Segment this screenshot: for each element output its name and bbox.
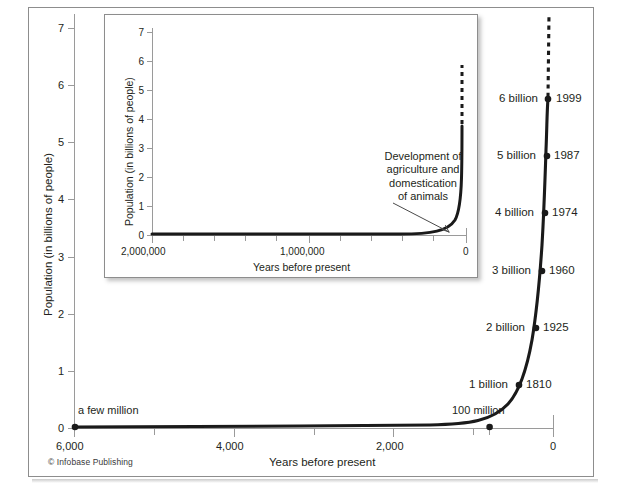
inset-annotation-arrow <box>393 203 449 232</box>
main-x-tick-label-6000: 6,000 <box>56 440 84 452</box>
main-x-tick-label-0: 0 <box>550 440 556 452</box>
inset-annotation-line-1: Development of <box>363 150 483 163</box>
milestone-dot-1925 <box>533 325 540 332</box>
milestone-year-1960: 1960 <box>549 264 575 277</box>
inset-x-axis-title: Years before present <box>253 262 350 274</box>
milestone-year-1925: 1925 <box>543 321 569 334</box>
inset-axes <box>147 28 467 243</box>
milestone-dot-1987 <box>544 153 551 160</box>
inset-annotation: Development of agriculture and domestica… <box>363 150 483 204</box>
inset-x-tick-label-1000000: 1,000,000 <box>280 246 325 257</box>
inset-y-tick-label-7: 7 <box>126 27 144 38</box>
inset-x-tick-label-2000000: 2,000,000 <box>121 246 166 257</box>
milestone-population-1999: 6 billion <box>464 92 538 105</box>
inset-y-tick-label-5: 5 <box>126 85 144 96</box>
event-label-a-few-million: a few million <box>78 404 139 416</box>
inset-y-tick-label-4: 4 <box>126 114 144 125</box>
event-dot-100-million <box>486 424 493 431</box>
event-label-100-million: 100 million <box>452 404 505 416</box>
milestone-population-1960: 3 billion <box>457 264 531 277</box>
inset-x-tick-label-0: 0 <box>463 246 469 257</box>
publisher-credit: © Infobase Publishing <box>48 457 133 467</box>
inset-y-tick-label-2: 2 <box>126 172 144 183</box>
milestone-year-1974: 1974 <box>552 206 578 219</box>
milestone-dot-1999 <box>545 96 552 103</box>
milestone-dot-1960 <box>539 268 546 275</box>
main-y-tick-label-5: 5 <box>44 136 64 148</box>
milestone-year-1999: 1999 <box>556 92 582 105</box>
milestone-population-1974: 4 billion <box>460 206 534 219</box>
main-y-tick-label-6: 6 <box>44 79 64 91</box>
population-growth-figure: Population (in billions of people) 7 6 5… <box>0 0 629 491</box>
milestone-year-1987: 1987 <box>554 149 580 162</box>
main-y-axis-title: Population (in billions of people) <box>42 153 55 316</box>
main-x-tick-label-2000: 2,000 <box>376 440 404 452</box>
main-y-tick-label-1: 1 <box>44 365 64 377</box>
milestone-dot-1810 <box>516 382 523 389</box>
inset-annotation-line-2: agriculture and <box>363 163 483 176</box>
main-population-curve-projection <box>548 14 549 97</box>
milestone-population-1925: 2 billion <box>451 321 525 334</box>
inset-y-tick-label-6: 6 <box>126 56 144 67</box>
main-y-tick-label-3: 3 <box>44 251 64 263</box>
main-axes <box>68 14 554 437</box>
main-y-tick-label-7: 7 <box>44 22 64 34</box>
inset-y-tick-label-3: 3 <box>126 143 144 154</box>
inset-annotation-line-3: domestication <box>363 177 483 190</box>
main-y-tick-label-0: 0 <box>44 422 64 434</box>
milestone-population-1810: 1 billion <box>434 378 508 391</box>
milestone-dot-1974 <box>542 210 549 217</box>
event-dot-a-few-million <box>72 424 79 431</box>
inset-y-tick-label-0: 0 <box>126 230 144 241</box>
main-x-axis-title: Years before present <box>269 456 375 469</box>
inset-annotation-line-4: of animals <box>363 190 483 203</box>
annotation-arrow-shaft <box>393 203 449 232</box>
milestone-year-1810: 1810 <box>526 378 552 391</box>
main-x-tick-label-4000: 4,000 <box>216 440 244 452</box>
main-y-tick-label-2: 2 <box>44 308 64 320</box>
inset-y-tick-label-1: 1 <box>126 201 144 212</box>
main-y-tick-label-4: 4 <box>44 193 64 205</box>
